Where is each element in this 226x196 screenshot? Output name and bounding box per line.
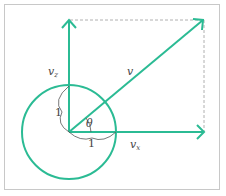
vector-diagram: vz v θ 1 1 vx — [0, 0, 226, 196]
label-unit-x: 1 — [88, 137, 95, 150]
vector-vy — [62, 20, 76, 132]
vector-v — [69, 19, 203, 132]
label-v: v — [127, 65, 134, 78]
label-theta: θ — [86, 117, 93, 130]
label-vz: vz — [48, 65, 58, 79]
label-unit-y: 1 — [55, 106, 62, 119]
label-vx: vx — [130, 138, 140, 152]
